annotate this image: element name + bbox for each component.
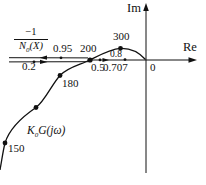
curve-label-suffix: G(jω) [38, 124, 65, 136]
im-axis-arrow-icon [143, 3, 149, 11]
locus-right-arrow-icon [40, 60, 48, 64]
locus-dot-095 [60, 56, 63, 59]
curve-dot-150 [3, 141, 8, 146]
freq-label-300: 300 [113, 31, 130, 42]
freq-label-180: 180 [62, 78, 79, 89]
locus-left-arrow-icon [40, 56, 48, 60]
describing-function-label: −1 N0(X) [12, 26, 50, 54]
amp-label-08: 0.8 [110, 50, 122, 60]
den-base: N [19, 40, 26, 51]
origin-label: 0 [150, 62, 156, 73]
amp-label-095: 0.95 [53, 43, 72, 54]
amp-label-02: 0.2 [22, 61, 36, 72]
freq-label-200: 200 [80, 43, 97, 54]
im-axis-label: Im [127, 2, 141, 15]
re-axis-arrow-icon [189, 57, 198, 63]
curve-dot [34, 105, 39, 110]
describing-function-denominator: N0(X) [12, 40, 50, 54]
freq-label-150: 150 [8, 143, 25, 154]
nyquist-curve-label: K0G(jω) [27, 125, 65, 139]
re-axis-label: Re [183, 41, 197, 54]
curve-label-base: K [27, 124, 35, 136]
nyquist-describing-function-figure: Im Re 0 300 200 180 150 0.95 0.2 0.5 0.8… [0, 0, 206, 185]
amp-label-0707: 0.707 [103, 62, 128, 73]
den-suffix: (X) [30, 40, 43, 51]
describing-function-numerator: −1 [14, 26, 48, 40]
